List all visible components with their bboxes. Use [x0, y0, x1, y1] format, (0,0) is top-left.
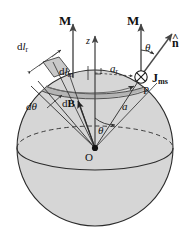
magnetization-left-label: M — [59, 14, 71, 27]
normal-unit-vector-label: ^ n — [172, 37, 179, 49]
d-theta-label: dθ — [26, 101, 37, 112]
origin-label: O — [85, 152, 93, 163]
dB-vector-label: dB — [62, 98, 75, 109]
radius-a-label: a — [122, 101, 128, 112]
magnetization-right-label: M — [127, 14, 139, 27]
dl-r-label: ddllr — [17, 41, 28, 53]
normal-hat-mark: ^ — [172, 32, 179, 43]
dl-m-subscript: m — [68, 70, 74, 79]
magnetized-sphere-figure: M M z ^ n θ ddllr dlm ar Jms P dθ dB a θ… — [0, 0, 190, 235]
a-r-label: ar — [110, 63, 118, 75]
figure-canvas — [0, 0, 190, 235]
circle-x-icon — [135, 71, 147, 83]
theta-center-label: θ — [98, 125, 103, 136]
point-P-label: P — [143, 85, 149, 96]
dl-r-subscript: r — [26, 45, 29, 54]
dl-m-label: dlm — [59, 66, 73, 78]
dB-B: B — [68, 97, 75, 109]
theta-top-label: θ — [145, 42, 150, 53]
current-density-subscript: ms — [158, 77, 168, 86]
a-r-subscript: r — [116, 67, 119, 76]
current-density-label: Jms — [152, 72, 168, 86]
z-axis-label: z — [86, 36, 90, 46]
